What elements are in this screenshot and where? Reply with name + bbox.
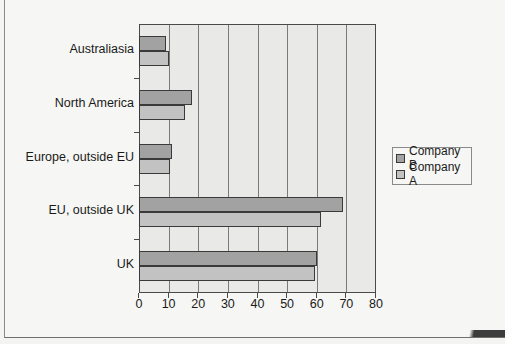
x-tick-label: 20 (183, 297, 213, 311)
bar-company-a (139, 266, 315, 281)
legend-swatch-icon (396, 170, 405, 179)
gridline (317, 25, 318, 292)
legend-item-company-a: Company A (396, 166, 468, 182)
y-tick (134, 239, 139, 240)
bar-company-b (139, 144, 172, 159)
category-label: North America (55, 96, 134, 110)
y-tick (134, 78, 139, 79)
x-tick-label: 80 (361, 297, 391, 311)
x-tick-label: 40 (243, 297, 273, 311)
x-tick-label: 10 (154, 297, 184, 311)
legend-swatch-icon (396, 154, 405, 163)
x-tick-label: 50 (272, 297, 302, 311)
bar-company-a (139, 212, 321, 227)
category-label: UK (117, 257, 134, 271)
gridline (346, 25, 347, 292)
bar-company-b (139, 90, 192, 105)
bar-company-a (139, 159, 170, 174)
bar-company-b (139, 36, 166, 51)
bar-company-b (139, 251, 317, 266)
category-label: Australiasia (69, 42, 134, 56)
legend: Company B Company A (392, 147, 472, 185)
x-tick-label: 60 (302, 297, 332, 311)
category-label: Europe, outside EU (26, 150, 134, 164)
x-tick-label: 30 (213, 297, 243, 311)
legend-label: Company A (409, 160, 468, 188)
category-label: EU, outside UK (49, 203, 134, 217)
y-tick (134, 185, 139, 186)
bar-company-a (139, 105, 185, 120)
chart-selection-shadow (461, 330, 505, 337)
bar-company-b (139, 197, 343, 212)
bar-company-a (139, 51, 169, 66)
y-tick (134, 132, 139, 133)
plot-area (139, 24, 376, 293)
x-tick-label: 0 (124, 297, 154, 311)
x-tick-label: 70 (331, 297, 361, 311)
